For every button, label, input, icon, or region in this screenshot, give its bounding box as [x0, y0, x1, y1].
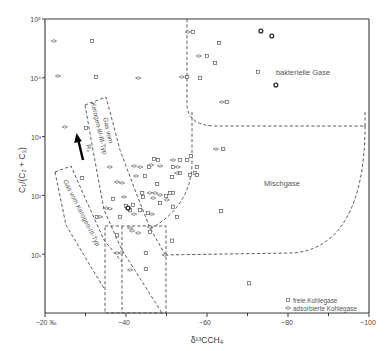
diamond-marker-icon [219, 101, 224, 104]
diamond-marker-icon [286, 307, 291, 310]
diamond-marker-icon [157, 165, 162, 168]
mixed-gas-label: Mischgase [264, 179, 300, 188]
diamond-marker-icon [132, 213, 137, 216]
square-marker-icon [171, 191, 174, 194]
kerogen-3-label: Gas vom Kerogen-III-Typ [61, 178, 102, 248]
diamond-marker-icon [55, 75, 60, 78]
square-marker-icon [256, 70, 259, 73]
square-marker-icon [191, 30, 194, 33]
y-tick-label: 10⁵ [30, 16, 41, 23]
diamond-marker-icon [62, 126, 67, 129]
diamond-marker-icon [51, 40, 56, 43]
diamond-marker-icon [175, 166, 180, 169]
y-tick-label: 10¹ [31, 252, 42, 259]
diamond-marker-icon [153, 192, 158, 195]
y-axis-title: C₁/(C₂ + C₃) [17, 147, 27, 193]
diamond-marker-icon [179, 76, 184, 79]
diamond-marker-icon [121, 196, 126, 199]
diamond-marker-icon [151, 197, 156, 200]
square-marker-icon [115, 234, 118, 237]
square-marker-icon [225, 100, 228, 103]
x-tick-label: −60 [199, 319, 211, 326]
diamond-marker-icon [127, 227, 132, 230]
y-tick-labels: 10⁵ 10⁴ 10³ 10² 10¹ [30, 16, 41, 259]
y-tick-label: 10³ [31, 134, 42, 141]
y-tick-label: 10² [31, 193, 42, 200]
square-marker-icon [90, 39, 93, 42]
diamond-marker-icon [129, 230, 134, 233]
x-tick-label: −100 [360, 319, 376, 326]
square-marker-icon [144, 267, 147, 270]
overlapping-marker-icon [259, 29, 263, 33]
square-marker-icon [218, 41, 221, 44]
square-marker-icon [171, 205, 174, 208]
square-marker-icon [84, 126, 87, 129]
kerogen-2-3-band-left [85, 105, 162, 313]
arrow-head-icon [74, 133, 82, 143]
square-marker-icon [171, 165, 174, 168]
square-marker-icon [171, 175, 174, 178]
square-marker-icon [148, 230, 151, 233]
square-marker-icon [205, 54, 208, 57]
square-marker-icon [220, 210, 223, 213]
plot-frame [45, 19, 369, 313]
square-marker-icon [141, 195, 144, 198]
square-marker-icon [186, 158, 189, 161]
diamond-marker-icon [196, 55, 201, 58]
square-marker-icon [248, 282, 251, 285]
maturity-arrow-label: Rₒ [85, 144, 94, 153]
field-boundaries [55, 19, 366, 313]
x-tick-label: −80 [281, 319, 293, 326]
diamond-marker-icon [157, 194, 162, 197]
square-marker-icon [131, 203, 134, 206]
diamond-marker-icon [164, 199, 169, 202]
legend-label-free-gas: freie Kohlegase [293, 297, 338, 305]
data-points [51, 29, 277, 285]
square-marker-icon [287, 299, 290, 302]
square-marker-icon [189, 154, 192, 157]
kerogen-3-band-left [55, 172, 105, 290]
square-marker-icon [222, 147, 225, 150]
diamond-marker-icon [213, 148, 218, 151]
diamond-marker-icon [185, 31, 190, 34]
diamond-marker-icon [127, 269, 132, 272]
square-marker-icon [118, 215, 121, 218]
square-marker-icon [156, 158, 159, 161]
overlapping-marker-icon [270, 34, 274, 38]
square-marker-icon [156, 182, 159, 185]
square-marker-icon [199, 76, 202, 79]
square-marker-icon [214, 61, 217, 64]
square-marker-icon [178, 158, 181, 161]
diamond-marker-icon [138, 166, 143, 169]
square-marker-icon [188, 173, 191, 176]
square-marker-icon [80, 176, 83, 179]
square-marker-icon [144, 251, 147, 254]
overlapping-marker-icon [126, 206, 130, 210]
axis-ticks [42, 19, 369, 317]
diamond-marker-icon [162, 254, 167, 257]
square-marker-icon [195, 173, 198, 176]
x-tick-label: −40 [118, 319, 130, 326]
x-axis-title: δ¹³CCH₄ [191, 335, 224, 345]
square-marker-icon [171, 239, 174, 242]
square-marker-icon [195, 165, 198, 168]
overlapping-marker-icon [274, 83, 278, 87]
square-marker-icon [94, 75, 97, 78]
diamond-marker-icon [147, 192, 152, 195]
geochemical-scatter-chart: 10⁵ 10⁴ 10³ 10² 10¹ −20 ‰ −40 −60 −80 −1… [0, 0, 389, 351]
bacterial-gas-label: bakterielle Gase [276, 68, 330, 77]
diamond-marker-icon [170, 159, 175, 162]
diamond-marker-icon [149, 213, 154, 216]
x-tick-labels: −20 ‰ −40 −60 −80 −100 [36, 319, 376, 326]
legend-label-adsorbed-gas: adsorbierte Kohlegase [293, 305, 357, 313]
square-marker-icon [175, 215, 178, 218]
diamond-marker-icon [136, 77, 141, 80]
thermogenic-box [105, 226, 166, 313]
y-tick-label: 10⁴ [30, 75, 41, 82]
square-marker-icon [143, 174, 146, 177]
diamond-marker-icon [107, 166, 112, 169]
diamond-marker-icon [132, 165, 137, 168]
x-tick-label: −20 ‰ [36, 319, 57, 326]
square-marker-icon [141, 191, 144, 194]
arrow-shaft [79, 141, 84, 160]
